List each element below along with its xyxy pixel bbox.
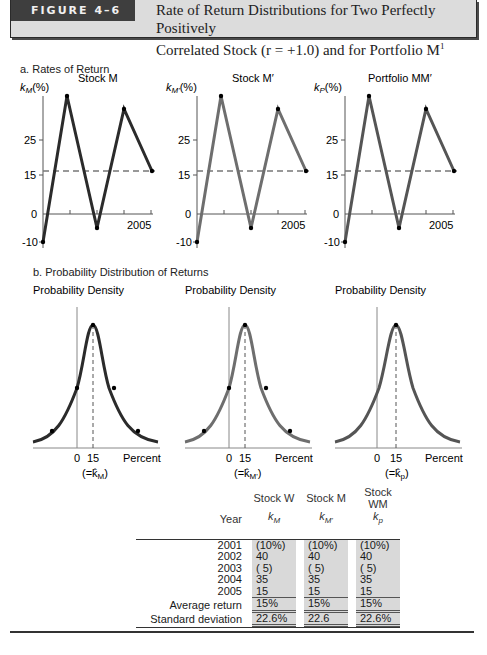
svg-text:-10: -10 [22, 236, 38, 248]
svg-text:2005: 2005 [127, 219, 151, 231]
svg-text:(=k̂p): (=k̂p) [385, 467, 409, 481]
svg-text:Probability Density: Probability Density [33, 284, 125, 296]
svg-text:kP(%): kP(%) [314, 81, 342, 95]
svg-text:0: 0 [185, 208, 191, 220]
svg-text:kM(%): kM(%) [20, 81, 49, 95]
table-row-std-dev: Standard deviation22.6%22.622.6% [136, 613, 400, 628]
svg-text:-10: -10 [324, 236, 340, 248]
svg-text:15: 15 [178, 169, 190, 181]
svg-text:0: 0 [333, 208, 339, 220]
svg-text:25: 25 [326, 134, 338, 146]
returns-table: Stock W Stock M Stock WM Year kM kM' kp … [136, 486, 400, 640]
svg-text:2005: 2005 [429, 219, 453, 231]
chart-title: Portfolio MM′ [368, 72, 432, 84]
bell-curve-portfolio: Probability Density 0 15 Percent (=k̂p) [335, 284, 463, 481]
table-row: 2002404040 [136, 551, 400, 563]
svg-text:Percent: Percent [425, 452, 463, 464]
svg-text:Probability Density: Probability Density [335, 284, 427, 296]
svg-text:(=k̂M'): (=k̂M') [234, 467, 261, 481]
svg-text:25: 25 [24, 134, 36, 146]
svg-text:25: 25 [178, 134, 190, 146]
svg-text:kM'(%): kM'(%) [166, 81, 197, 95]
svg-text:0: 0 [374, 452, 380, 464]
svg-text:-10: -10 [176, 236, 192, 248]
line-chart-portfolio-mm: kP(%) Portfolio MM′ 25 15 0 -10 2005 [314, 72, 457, 248]
svg-text:0: 0 [74, 452, 80, 464]
bell-curve-stock-m-prime: Probability Density 0 15 Percent (=k̂M') [185, 284, 313, 481]
probability-distribution-charts: Probability Density 0 15 Percent (=k̂M) … [0, 270, 487, 490]
svg-text:15: 15 [326, 169, 338, 181]
chart-title: Stock M [78, 72, 118, 84]
svg-text:15: 15 [390, 452, 402, 464]
bottom-divider [10, 631, 474, 633]
svg-text:15: 15 [24, 169, 36, 181]
chart-title: Stock M′ [232, 72, 274, 84]
svg-text:15: 15 [87, 452, 99, 464]
rates-of-return-charts: kM(%) Stock M 25 15 0 -10 2005 kM'(%) St… [0, 0, 487, 260]
line-chart-stock-m-prime: kM'(%) Stock M′ 25 15 0 -10 2005 [166, 72, 309, 248]
svg-text:15: 15 [239, 452, 251, 464]
line-chart-stock-m: kM(%) Stock M 25 15 0 -10 2005 [20, 72, 155, 248]
svg-text:Percent: Percent [123, 452, 161, 464]
svg-text:0: 0 [31, 208, 37, 220]
table-row-average: Average return15%15%15% [136, 598, 400, 613]
table-row: 2004353535 [136, 574, 400, 586]
svg-text:(=k̂M): (=k̂M) [82, 467, 108, 481]
svg-text:2005: 2005 [281, 219, 305, 231]
svg-text:0: 0 [226, 452, 232, 464]
svg-text:Probability Density: Probability Density [185, 284, 277, 296]
svg-text:Percent: Percent [275, 452, 313, 464]
bell-curve-stock-m: Probability Density 0 15 Percent (=k̂M) [33, 284, 161, 481]
